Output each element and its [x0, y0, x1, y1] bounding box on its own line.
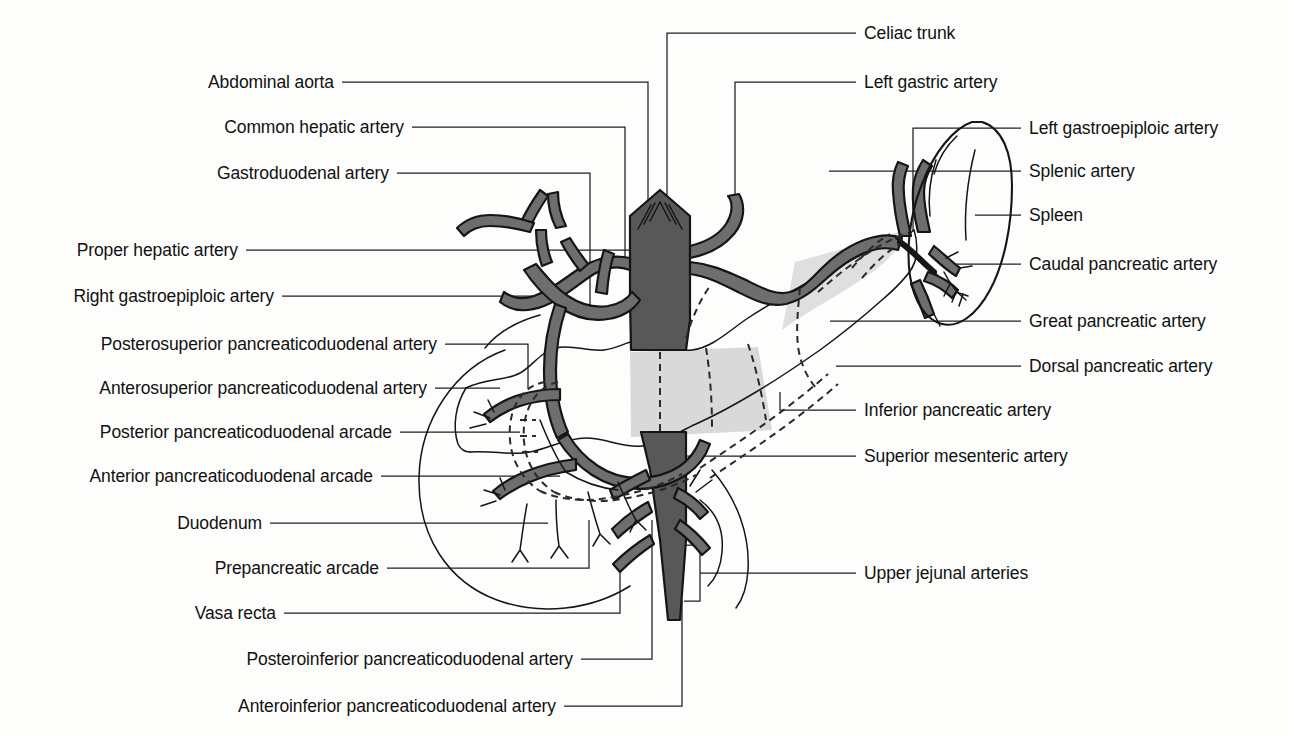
label-proper-hepatic-artery: Proper hepatic artery — [0, 242, 238, 260]
label-anterosuperior-pancreaticoduodenal-artery: Anterosuperior pancreaticoduodenal arter… — [0, 380, 427, 398]
label-celiac-trunk: Celiac trunk — [864, 25, 955, 43]
label-posterior-pancreaticoduodenal-arcade: Posterior pancreaticoduodenal arcade — [0, 424, 392, 442]
anatomy-figure: .ln { stroke:#1f1f1f; stroke-width:1.25;… — [0, 0, 1289, 736]
label-great-pancreatic-artery: Great pancreatic artery — [1029, 313, 1206, 331]
label-dorsal-pancreatic-artery: Dorsal pancreatic artery — [1029, 358, 1212, 376]
label-right-gastroepiploic-artery: Right gastroepiploic artery — [0, 288, 274, 306]
label-gastroduodenal-artery: Gastroduodenal artery — [0, 165, 389, 183]
label-anterior-pancreaticoduodenal-arcade: Anterior pancreaticoduodenal arcade — [0, 468, 373, 486]
label-vasa-recta: Vasa recta — [0, 605, 276, 623]
label-prepancreatic-arcade: Prepancreatic arcade — [0, 560, 379, 578]
label-common-hepatic-artery: Common hepatic artery — [0, 119, 404, 137]
label-inferior-pancreatic-artery: Inferior pancreatic artery — [864, 402, 1051, 420]
label-abdominal-aorta: Abdominal aorta — [0, 74, 334, 92]
duodenum-outline — [419, 315, 630, 609]
label-spleen: Spleen — [1029, 207, 1083, 225]
label-upper-jejunal-arteries: Upper jejunal arteries — [864, 565, 1028, 583]
label-left-gastric-artery: Left gastric artery — [864, 74, 997, 92]
label-posteroinferior-pancreaticoduodenal-artery: Posteroinferior pancreaticoduodenal arte… — [0, 651, 573, 669]
label-superior-mesenteric-artery: Superior mesenteric artery — [864, 448, 1068, 466]
label-caudal-pancreatic-artery: Caudal pancreatic artery — [1029, 256, 1217, 274]
label-duodenum: Duodenum — [0, 515, 262, 533]
label-left-gastroepiploic-artery: Left gastroepiploic artery — [1029, 120, 1218, 138]
label-anteroinferior-pancreaticoduodenal-artery: Anteroinferior pancreaticoduodenal arter… — [0, 698, 556, 716]
label-posterosuperior-pancreaticoduodenal-artery: Posterosuperior pancreaticoduodenal arte… — [0, 336, 437, 354]
label-splenic-artery: Splenic artery — [1029, 163, 1135, 181]
